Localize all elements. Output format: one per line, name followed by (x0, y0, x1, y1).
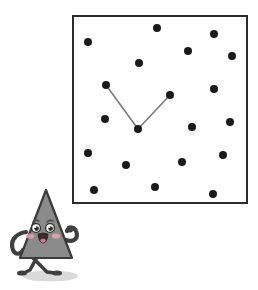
character-right-fist (67, 226, 74, 233)
clock-panel-group (73, 16, 247, 203)
scene-canvas (0, 0, 258, 290)
clock-panel-border (73, 16, 247, 203)
illustration-scene (0, 0, 258, 290)
dot-5 (228, 52, 236, 60)
dot-11 (226, 118, 234, 126)
dot-3 (84, 38, 92, 46)
dot-16 (178, 158, 186, 166)
dot-19 (151, 183, 159, 191)
dot-2 (210, 30, 218, 38)
dot-18 (90, 186, 98, 194)
dot-17 (122, 161, 130, 169)
dot-8 (210, 85, 218, 93)
dot-1 (153, 24, 161, 32)
dot-4 (184, 47, 192, 55)
dot-7 (102, 81, 110, 89)
dot-14 (84, 149, 92, 157)
dot-15 (219, 151, 227, 159)
character-left-foot (17, 270, 27, 275)
dot-20 (209, 190, 217, 198)
character-left-eye-glint (35, 226, 37, 228)
dot-13 (134, 125, 142, 133)
dot-10 (101, 115, 109, 123)
character-right-foot (52, 270, 62, 275)
dot-12 (188, 123, 196, 131)
character-right-cheek (52, 233, 60, 238)
character-left-cheek (26, 233, 34, 238)
dot-6 (135, 59, 143, 67)
dot-9 (166, 91, 174, 99)
character-right-eye-glint (49, 226, 51, 228)
